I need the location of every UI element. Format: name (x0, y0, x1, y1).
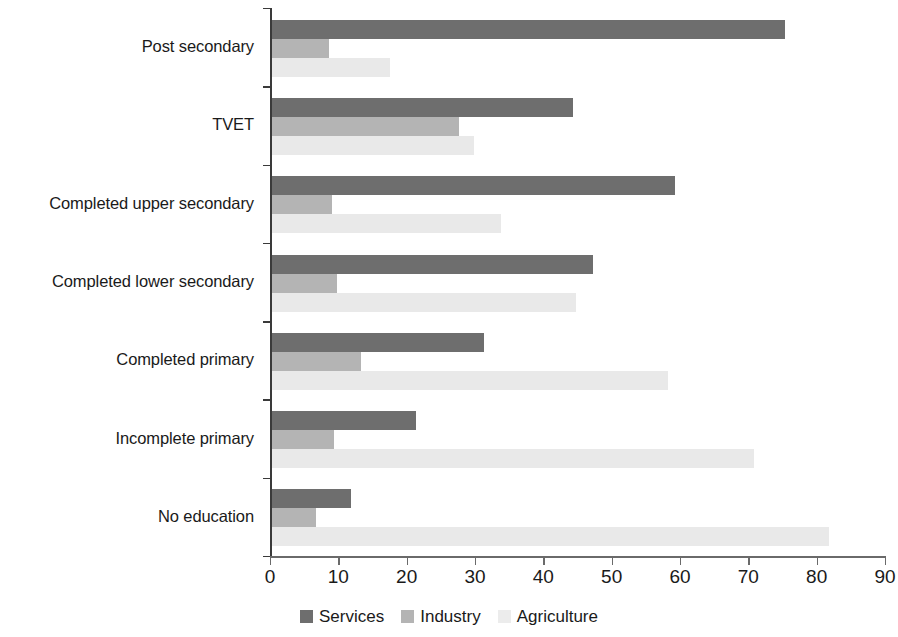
x-axis-tick (817, 556, 818, 565)
y-axis-tick (263, 165, 270, 166)
x-axis-tick (680, 556, 681, 565)
x-axis-tick (748, 556, 749, 565)
x-axis-tick (612, 556, 613, 565)
legend-swatch-icon (300, 610, 313, 623)
x-axis-tick-label: 30 (464, 567, 485, 586)
bar-group (272, 411, 887, 468)
bar-services (272, 255, 593, 274)
bar-industry (272, 352, 361, 371)
x-axis-tick (475, 556, 476, 565)
y-axis-tick (263, 321, 270, 322)
bar-services (272, 411, 416, 430)
x-axis-tick (270, 556, 271, 565)
bar-group (272, 255, 887, 312)
legend-item: Agriculture (498, 608, 598, 625)
bar-industry (272, 274, 337, 293)
x-axis-tick (407, 556, 408, 565)
bar-group (272, 20, 887, 77)
x-axis-tick-label: 60 (669, 567, 690, 586)
x-axis-tick-label: 0 (265, 567, 276, 586)
bar-industry (272, 195, 332, 214)
bar-agriculture (272, 371, 668, 390)
bar-services (272, 489, 351, 508)
x-axis-tick-label: 70 (738, 567, 759, 586)
y-axis-tick (263, 86, 270, 87)
y-axis-tick (263, 8, 270, 9)
bar-agriculture (272, 58, 390, 77)
bar-group (272, 333, 887, 390)
legend-label: Agriculture (517, 608, 598, 625)
y-axis-category-label: Completed upper secondary (0, 195, 254, 212)
y-axis-category-label: No education (0, 508, 254, 525)
y-axis-tick (263, 399, 270, 400)
x-axis-tick-label: 40 (533, 567, 554, 586)
chart-legend: ServicesIndustryAgriculture (0, 608, 898, 625)
legend-swatch-icon (401, 610, 414, 623)
legend-swatch-icon (498, 610, 511, 623)
legend-item: Industry (401, 608, 480, 625)
y-axis-category-labels: Post secondaryTVETCompleted upper second… (0, 8, 262, 556)
x-axis-tick-label: 50 (601, 567, 622, 586)
y-axis-tick (263, 556, 270, 557)
bar-agriculture (272, 136, 474, 155)
bar-industry (272, 117, 459, 136)
bar-services (272, 20, 785, 39)
bar-group (272, 176, 887, 233)
x-axis-tick-label: 80 (806, 567, 827, 586)
legend-label: Industry (420, 608, 480, 625)
y-axis-tick (263, 243, 270, 244)
bar-services (272, 333, 484, 352)
bar-industry (272, 430, 334, 449)
bar-services (272, 98, 573, 117)
legend-label: Services (319, 608, 384, 625)
plot-area (270, 8, 885, 556)
x-axis-ticks-and-labels: 0102030405060708090 (270, 556, 886, 596)
bar-agriculture (272, 527, 829, 546)
x-axis-tick (543, 556, 544, 565)
x-axis-tick-label: 90 (874, 567, 895, 586)
x-axis-tick (885, 556, 886, 565)
bar-agriculture (272, 214, 501, 233)
x-axis-tick-label: 10 (328, 567, 349, 586)
bar-industry (272, 508, 316, 527)
bar-group (272, 98, 887, 155)
x-axis-tick-label: 20 (396, 567, 417, 586)
bar-services (272, 176, 675, 195)
y-axis-category-label: Post secondary (0, 38, 254, 55)
y-axis-category-label: TVET (0, 116, 254, 133)
x-axis-tick (338, 556, 339, 565)
y-axis-category-label: Completed primary (0, 351, 254, 368)
bar-agriculture (272, 293, 576, 312)
horizontal-bar-chart: Post secondaryTVETCompleted upper second… (0, 0, 898, 637)
bar-industry (272, 39, 329, 58)
y-axis-category-label: Incomplete primary (0, 430, 254, 447)
bar-group (272, 489, 887, 546)
bar-agriculture (272, 449, 754, 468)
y-axis-category-label: Completed lower secondary (0, 273, 254, 290)
legend-item: Services (300, 608, 384, 625)
y-axis-tick (263, 478, 270, 479)
